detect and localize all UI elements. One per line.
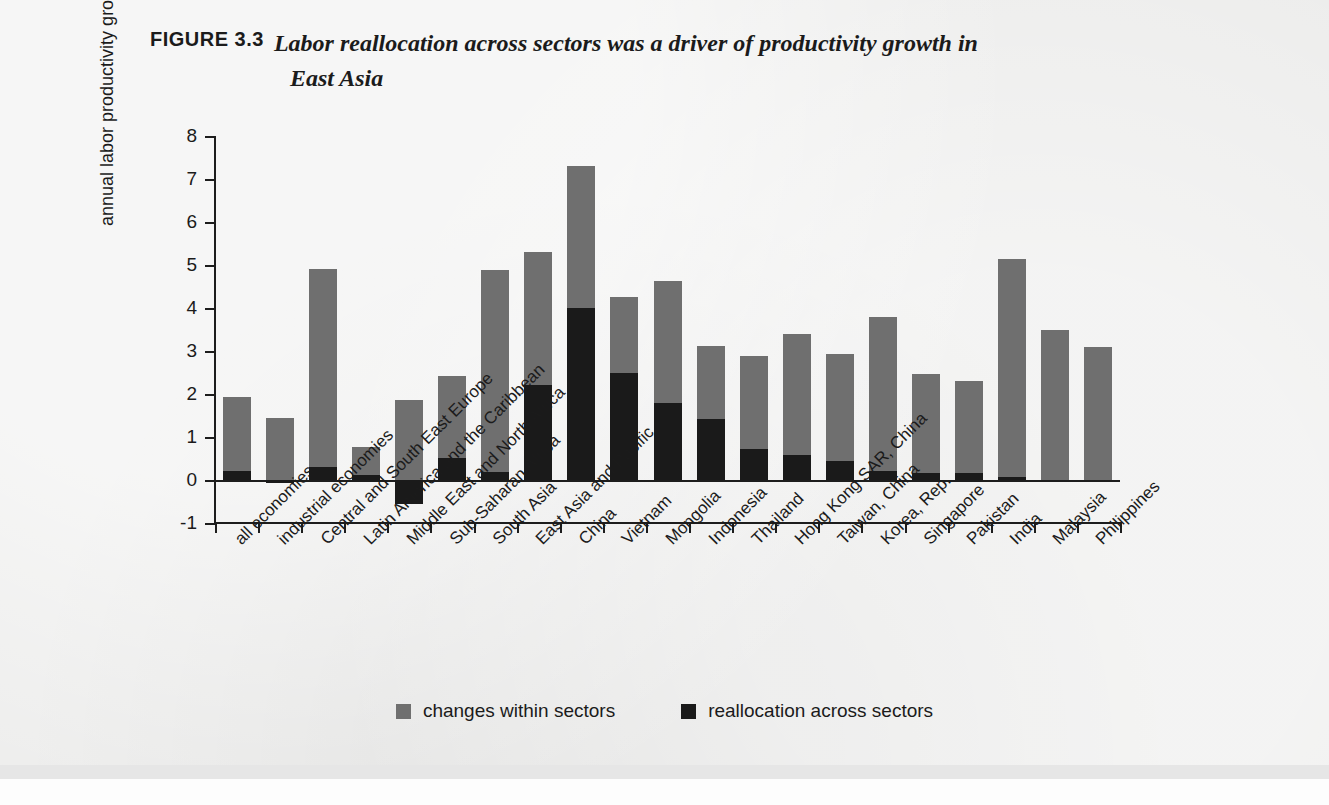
y-tick-label: 4 xyxy=(186,297,197,319)
y-tick-3: 3 xyxy=(205,351,215,353)
legend-item-reallocation[interactable]: reallocation across sectors xyxy=(681,700,933,722)
bar-segment-reallocation xyxy=(223,471,251,480)
bar-segment-within-sectors xyxy=(826,354,854,461)
page-bottom-margin xyxy=(0,779,1329,805)
bar-segment-within-sectors xyxy=(697,346,725,419)
bar-segment-within-sectors xyxy=(223,397,251,470)
y-axis-title: annual labor productivity growth, % xyxy=(97,0,118,226)
bar-segment-reallocation xyxy=(567,308,595,480)
page-edge-shadow xyxy=(0,765,1329,779)
bar-segment-reallocation xyxy=(740,449,768,480)
square-gray-icon xyxy=(396,704,411,719)
y-tick-label: -1 xyxy=(180,512,197,534)
y-tick-2: 2 xyxy=(205,394,215,396)
bar-segment-within-sectors xyxy=(740,356,768,449)
bar-segment-within-sectors xyxy=(1084,347,1112,480)
bar-malaysia[interactable] xyxy=(1041,136,1069,523)
bar-segment-reallocation xyxy=(697,419,725,480)
bar-segment-within-sectors xyxy=(266,418,294,480)
bar-mongolia[interactable] xyxy=(654,136,682,523)
bar-segment-within-sectors xyxy=(567,166,595,308)
figure-title-line-1: Labor reallocation across sectors was a … xyxy=(274,30,978,56)
bar-thailand[interactable] xyxy=(740,136,768,523)
y-tick--1: -1 xyxy=(205,523,215,525)
bar-industrial-economies[interactable] xyxy=(266,136,294,523)
bar-segment-within-sectors xyxy=(955,381,983,473)
y-tick-label: 6 xyxy=(186,211,197,233)
y-tick-8: 8 xyxy=(205,136,215,138)
bar-central-and-south-east-europe[interactable] xyxy=(309,136,337,523)
bar-segment-reallocation xyxy=(955,473,983,480)
bar-china[interactable] xyxy=(567,136,595,523)
bar-hong-kong-sar-china[interactable] xyxy=(783,136,811,523)
bar-segment-within-sectors xyxy=(309,269,337,467)
bar-all-economies[interactable] xyxy=(223,136,251,523)
y-tick-label: 1 xyxy=(186,426,197,448)
x-tick xyxy=(215,522,217,533)
y-tick-label: 7 xyxy=(186,168,197,190)
y-tick-1: 1 xyxy=(205,437,215,439)
y-tick-label: 2 xyxy=(186,383,197,405)
y-tick-6: 6 xyxy=(205,222,215,224)
chart-plot-area: annual labor productivity growth, % -101… xyxy=(215,136,1120,523)
y-tick-5: 5 xyxy=(205,265,215,267)
y-tick-label: 3 xyxy=(186,340,197,362)
bar-taiwan-china[interactable] xyxy=(826,136,854,523)
y-tick-label: 0 xyxy=(186,469,197,491)
figure-page: FIGURE 3.3Labor reallocation across sect… xyxy=(0,0,1329,805)
square-black-icon xyxy=(681,704,696,719)
bar-indonesia[interactable] xyxy=(697,136,725,523)
legend-label: changes within sectors xyxy=(423,700,615,722)
bar-segment-reallocation xyxy=(654,403,682,480)
bar-segment-within-sectors xyxy=(1041,330,1069,480)
y-tick-label: 5 xyxy=(186,254,197,276)
bar-segment-reallocation xyxy=(998,477,1026,480)
figure-title-line-2: East Asia xyxy=(290,63,1180,94)
legend-label: reallocation across sectors xyxy=(708,700,933,722)
bar-segment-within-sectors xyxy=(998,259,1026,477)
y-tick-7: 7 xyxy=(205,179,215,181)
bar-india[interactable] xyxy=(998,136,1026,523)
bar-pakistan[interactable] xyxy=(955,136,983,523)
bar-segment-reallocation xyxy=(783,455,811,480)
figure-title-block: FIGURE 3.3Labor reallocation across sect… xyxy=(150,28,1180,94)
figure-number-label: FIGURE 3.3 xyxy=(150,28,264,50)
y-tick-4: 4 xyxy=(205,308,215,310)
chart-legend: changes within sectorsreallocation acros… xyxy=(0,700,1329,722)
y-tick-label: 8 xyxy=(186,125,197,147)
y-tick-0: 0 xyxy=(205,480,215,482)
y-axis-line xyxy=(214,136,216,523)
legend-item-within-sectors[interactable]: changes within sectors xyxy=(396,700,615,722)
bar-segment-within-sectors xyxy=(654,281,682,402)
bar-segment-within-sectors xyxy=(783,334,811,456)
bar-philippines[interactable] xyxy=(1084,136,1112,523)
bar-segment-within-sectors xyxy=(610,297,638,372)
